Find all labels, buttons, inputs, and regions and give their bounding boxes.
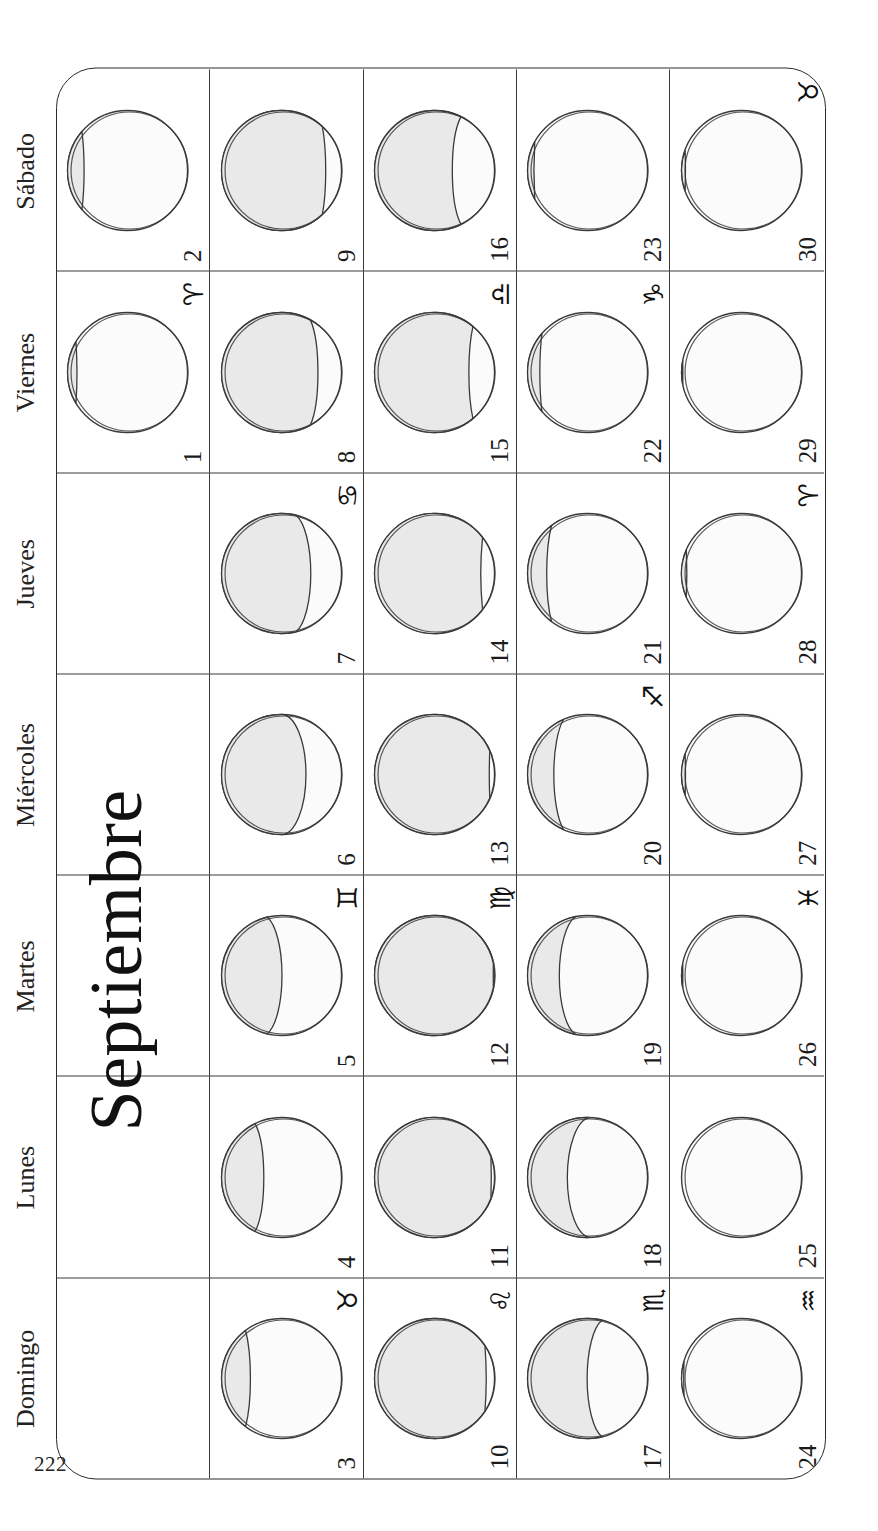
moon-phase-icon <box>520 304 656 440</box>
moon-phase-icon <box>520 102 656 238</box>
calendar-day-cell[interactable]: 25 <box>670 1076 823 1277</box>
moon-phase-icon <box>366 1109 502 1245</box>
day-number: 13 <box>487 840 512 865</box>
day-number: 23 <box>640 236 665 261</box>
calendar-day-cell[interactable]: 10♌ <box>364 1277 517 1478</box>
moon-phase-icon <box>213 304 349 440</box>
moon-phase-icon <box>520 1109 656 1245</box>
day-number: 27 <box>795 840 820 865</box>
moon-phase-icon <box>520 706 656 842</box>
moon-phase-icon <box>213 907 349 1043</box>
calendar-day-cell[interactable]: 30♉ <box>670 69 823 270</box>
weekday-header-martes: Martes <box>6 875 46 1076</box>
zodiac-sign-icon: ♎ <box>487 281 514 305</box>
moon-phase-icon <box>520 505 656 641</box>
weekday-header-viernes: Viernes <box>6 271 46 472</box>
calendar-day-cell[interactable]: 11 <box>364 1076 517 1277</box>
zodiac-sign-icon: ♉ <box>334 1288 361 1312</box>
calendar-day-cell[interactable]: 21 <box>517 472 670 673</box>
moon-phase-icon <box>674 1109 810 1245</box>
weekday-header-sbado: Sábado <box>6 70 46 271</box>
moon-phase-icon <box>674 304 810 440</box>
calendar-day-cell[interactable]: 14 <box>364 472 517 673</box>
day-number: 25 <box>795 1243 820 1268</box>
weekday-header-lunes: Lunes <box>6 1077 46 1278</box>
day-number: 3 <box>334 1457 359 1470</box>
calendar-day-cell[interactable]: 27 <box>670 673 823 874</box>
zodiac-sign-icon: ♒ <box>795 1288 822 1312</box>
moon-phase-icon <box>213 706 349 842</box>
calendar-day-cell[interactable]: 8 <box>210 270 363 471</box>
calendar-day-cell[interactable]: 29 <box>670 270 823 471</box>
calendar-day-cell[interactable]: 12♍ <box>364 874 517 1075</box>
calendar-day-cell[interactable]: 18 <box>517 1076 670 1277</box>
calendar-day-cell[interactable]: 1♈ <box>57 270 210 471</box>
moon-phase-icon <box>213 102 349 238</box>
day-number: 5 <box>334 1054 359 1067</box>
day-number: 4 <box>334 1255 359 1268</box>
weekday-header-row: DomingoLunesMartesMiércolesJuevesViernes… <box>0 0 56 1531</box>
moon-phase-icon <box>674 1310 810 1446</box>
calendar-sheet: DomingoLunesMartesMiércolesJuevesViernes… <box>0 0 878 1531</box>
moon-phase-icon <box>366 102 502 238</box>
day-number: 20 <box>640 840 665 865</box>
day-number: 22 <box>640 438 665 463</box>
day-number: 14 <box>487 639 512 664</box>
day-number: 6 <box>334 853 359 866</box>
month-title: Septiembre <box>74 457 159 1463</box>
day-number: 21 <box>640 639 665 664</box>
day-number: 11 <box>487 1244 512 1268</box>
day-number: 12 <box>487 1042 512 1067</box>
moon-phase-icon <box>366 505 502 641</box>
calendar-day-cell[interactable]: 6 <box>210 673 363 874</box>
calendar-day-cell[interactable]: 9 <box>210 69 363 270</box>
calendar-day-cell[interactable]: 22♑ <box>517 270 670 471</box>
calendar-day-cell[interactable]: 15♎ <box>364 270 517 471</box>
weekday-header-jueves: Jueves <box>6 473 46 674</box>
zodiac-sign-icon: ♊ <box>334 885 361 909</box>
day-number: 7 <box>334 651 359 664</box>
calendar-day-cell[interactable]: 2 <box>57 69 210 270</box>
calendar-day-cell[interactable]: 3♉ <box>210 1277 363 1478</box>
moon-phase-icon <box>60 304 196 440</box>
calendar-day-cell[interactable]: 4 <box>210 1076 363 1277</box>
day-number: 15 <box>487 438 512 463</box>
day-number: 9 <box>334 249 359 262</box>
moon-phase-icon <box>213 1109 349 1245</box>
calendar-day-cell[interactable]: 13 <box>364 673 517 874</box>
day-number: 24 <box>795 1444 820 1469</box>
calendar-day-cell[interactable]: 5♊ <box>210 874 363 1075</box>
calendar-day-cell[interactable]: 24♒ <box>670 1277 823 1478</box>
calendar-day-cell[interactable]: 7♋ <box>210 472 363 673</box>
calendar-day-cell[interactable]: 23 <box>517 69 670 270</box>
calendar-day-cell[interactable]: 19 <box>517 874 670 1075</box>
moon-phase-icon <box>366 706 502 842</box>
day-number: 19 <box>640 1042 665 1067</box>
day-number: 26 <box>795 1042 820 1067</box>
moon-phase-icon <box>213 1310 349 1446</box>
zodiac-sign-icon: ♓ <box>795 885 822 909</box>
zodiac-sign-icon: ♈ <box>795 483 822 507</box>
zodiac-sign-icon: ♐ <box>640 684 667 708</box>
moon-phase-icon <box>674 907 810 1043</box>
moon-phase-icon <box>366 304 502 440</box>
calendar-day-cell[interactable]: 28♈ <box>670 472 823 673</box>
calendar-day-cell[interactable]: 20♐ <box>517 673 670 874</box>
day-number: 18 <box>640 1243 665 1268</box>
day-number: 2 <box>180 249 205 262</box>
moon-phase-icon <box>60 102 196 238</box>
moon-phase-icon <box>674 102 810 238</box>
calendar-day-cell[interactable]: 16 <box>364 69 517 270</box>
zodiac-sign-icon: ♋ <box>334 483 361 507</box>
day-number: 10 <box>487 1444 512 1469</box>
moon-phase-icon <box>520 1310 656 1446</box>
moon-phase-icon <box>674 505 810 641</box>
day-number: 17 <box>640 1444 665 1469</box>
day-number: 1 <box>180 450 205 463</box>
calendar-day-cell[interactable]: 26♓ <box>670 874 823 1075</box>
day-number: 28 <box>795 639 820 664</box>
day-number: 8 <box>334 450 359 463</box>
zodiac-sign-icon: ♉ <box>795 79 822 103</box>
calendar-day-cell[interactable]: 17♏ <box>517 1277 670 1478</box>
calendar-grid: 1♈ 2 3♉ 4 5♊ 6 7♋ 8 9 <box>56 67 826 1479</box>
